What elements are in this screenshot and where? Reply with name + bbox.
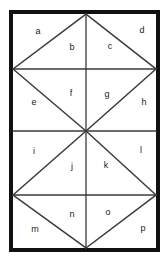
region-label-m: m (31, 224, 39, 234)
region-label-e: e (31, 97, 36, 107)
region-label-p: p (140, 223, 145, 233)
region-label-k: k (104, 160, 109, 170)
geometric-figure-svg: abcdefghijklmnop (0, 0, 168, 262)
region-label-l: l (140, 145, 142, 155)
figure-container: abcdefghijklmnop (0, 0, 168, 262)
region-label-h: h (141, 97, 146, 107)
region-label-c: c (108, 41, 113, 51)
region-label-g: g (104, 89, 109, 99)
region-label-o: o (105, 207, 110, 217)
region-label-j: j (70, 161, 73, 171)
region-label-b: b (69, 42, 74, 52)
region-label-a: a (35, 26, 40, 36)
region-label-i: i (33, 146, 35, 156)
region-label-n: n (69, 209, 74, 219)
region-label-d: d (139, 25, 144, 35)
